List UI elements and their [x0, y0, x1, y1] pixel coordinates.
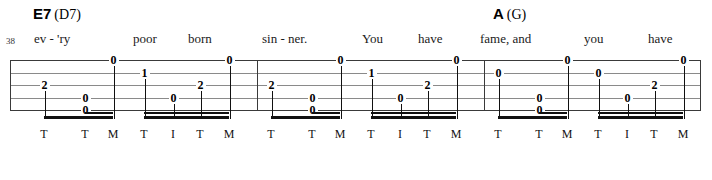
- fingering-letter: M: [107, 128, 119, 140]
- tab-note: 0: [308, 104, 318, 116]
- tab-note: 0: [169, 92, 179, 104]
- tab-note: 0: [81, 104, 91, 116]
- note-stem: [341, 62, 342, 119]
- lyric-syllable: have: [648, 32, 673, 45]
- tab-note: 0: [396, 92, 406, 104]
- tab-note: 0: [308, 92, 318, 104]
- beam-secondary: [85, 112, 113, 114]
- fingering-letter: M: [450, 128, 462, 140]
- tab-note: 0: [225, 54, 235, 66]
- tab-note: 0: [563, 54, 573, 66]
- barline: [700, 60, 701, 111]
- note-stem: [457, 62, 458, 119]
- fingering-letter: T: [421, 128, 433, 140]
- lyric-syllable: sin - ner.: [262, 32, 307, 45]
- fingering-letter: T: [365, 128, 377, 140]
- chord-root: A: [493, 5, 504, 22]
- beam: [312, 116, 340, 119]
- lyric-syllable: fame, and: [480, 32, 531, 45]
- tab-note: 1: [367, 67, 377, 79]
- tab-note: 2: [40, 79, 50, 91]
- chord-alternate: (D7): [54, 7, 80, 22]
- tab-note: 0: [81, 92, 91, 104]
- tab-note: 1: [140, 67, 150, 79]
- fingering-letter: T: [138, 128, 150, 140]
- measure-number: 38: [6, 36, 15, 46]
- tab-note: 0: [594, 67, 604, 79]
- note-stem: [684, 62, 685, 119]
- tablature-sheet: 38 E7(D7)A(G) ev - 'rypoorbornsin - ner.…: [0, 0, 712, 180]
- tab-note: 0: [452, 54, 462, 66]
- tab-note: 2: [650, 79, 660, 91]
- chord-alternate: (G): [507, 7, 526, 22]
- tab-note: 0: [535, 92, 545, 104]
- note-stem: [114, 62, 115, 119]
- beam-secondary: [312, 112, 340, 114]
- beam-secondary: [598, 112, 683, 114]
- fingering-letter: M: [223, 128, 235, 140]
- beam: [598, 116, 683, 119]
- beam: [371, 116, 456, 119]
- fingering-letter: M: [677, 128, 689, 140]
- barline: [10, 60, 11, 111]
- lyric-syllable: ev - 'ry: [34, 32, 70, 45]
- tab-note: 0: [109, 54, 119, 66]
- lyric-syllable: poor: [133, 32, 157, 45]
- barline: [257, 60, 258, 111]
- fingering-letter: I: [167, 128, 179, 140]
- tab-note: 0: [494, 67, 504, 79]
- beam: [539, 116, 567, 119]
- chord-symbol: A(G): [493, 6, 526, 22]
- beam: [85, 116, 113, 119]
- fingering-letter: T: [592, 128, 604, 140]
- barline: [484, 60, 485, 111]
- tab-note: 0: [336, 54, 346, 66]
- fingering-letter: T: [648, 128, 660, 140]
- tab-note: 2: [267, 79, 277, 91]
- tab-note: 0: [535, 104, 545, 116]
- fingering-letter: M: [334, 128, 346, 140]
- lyric-syllable: have: [418, 32, 443, 45]
- fingering-letter: T: [38, 128, 50, 140]
- fingering-letter: M: [561, 128, 573, 140]
- chord-symbol: E7(D7): [33, 6, 81, 22]
- fingering-letter: I: [394, 128, 406, 140]
- note-stem: [568, 62, 569, 119]
- tab-note: 2: [196, 79, 206, 91]
- lyric-syllable: you: [584, 32, 604, 45]
- lyric-syllable: You: [362, 32, 383, 45]
- beam-secondary: [371, 112, 456, 114]
- fingering-letter: I: [621, 128, 633, 140]
- beam: [144, 116, 229, 119]
- fingering-letter: T: [533, 128, 545, 140]
- beam-secondary: [539, 112, 567, 114]
- fingering-letter: T: [265, 128, 277, 140]
- tab-note: 2: [423, 79, 433, 91]
- tab-note: 0: [623, 92, 633, 104]
- fingering-letter: T: [492, 128, 504, 140]
- note-stem: [499, 75, 500, 120]
- chord-root: E7: [33, 5, 51, 22]
- lyric-syllable: born: [188, 32, 212, 45]
- tab-note: 0: [679, 54, 689, 66]
- fingering-letter: T: [194, 128, 206, 140]
- note-stem: [230, 62, 231, 119]
- beam-secondary: [144, 112, 229, 114]
- fingering-letter: T: [306, 128, 318, 140]
- fingering-letter: T: [79, 128, 91, 140]
